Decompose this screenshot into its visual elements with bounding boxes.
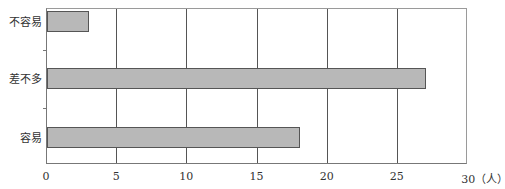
x-tick-label: 0 [43,170,50,183]
x-tick-label: 15 [250,170,264,183]
bar-2 [47,127,300,148]
x-tick-label: 25 [390,170,404,183]
y-tick [43,50,47,51]
bar-1 [47,68,426,89]
y-category-label: 不容易 [0,13,42,29]
x-tick-label: 20 [320,170,334,183]
plot-area [46,8,467,164]
x-tick-label: 5 [113,170,120,183]
y-tick [43,108,47,109]
y-category-label: 容易 [0,129,42,145]
bar-0 [47,11,89,32]
y-category-label: 差不多 [0,70,42,86]
x-tick-label: 30（人） [461,170,505,186]
x-tick-label: 10 [179,170,193,183]
